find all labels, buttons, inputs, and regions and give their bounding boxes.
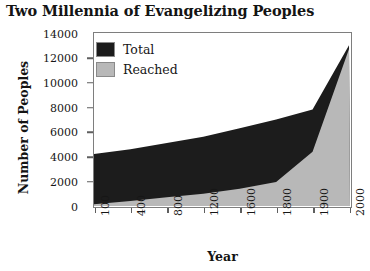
x-tick-label: 2000 [354, 188, 367, 216]
x-tick-label: 800 [172, 195, 185, 216]
y-tick-label: 2000 [50, 175, 78, 188]
y-tick-label: 10000 [43, 76, 78, 89]
x-tick-mark [131, 208, 133, 213]
x-tick-mark [95, 208, 97, 213]
x-tick-label: 1900 [318, 188, 331, 216]
legend-label: Reached [123, 62, 178, 77]
y-axis: 02000400060008000100001200014000 [0, 32, 88, 208]
x-axis-title: Year [93, 249, 352, 264]
x-tick-label: 400 [135, 195, 148, 216]
legend-label: Total [123, 42, 154, 57]
x-tick-mark [277, 208, 279, 213]
legend-swatch-reached [96, 62, 115, 77]
y-tick-label: 6000 [50, 126, 78, 139]
x-tick-mark [204, 208, 206, 213]
legend-swatch-total [96, 42, 115, 57]
y-tick-label: 8000 [50, 101, 78, 114]
x-tick-label: 1200 [208, 188, 221, 216]
x-tick-mark [313, 208, 315, 213]
x-tick-label: 1800 [281, 188, 294, 216]
x-tick-mark [350, 208, 352, 213]
x-axis: 10040080012001600180019002000 [93, 208, 352, 254]
y-tick-label: 14000 [43, 27, 78, 40]
legend-item-total: Total [96, 42, 178, 57]
x-tick-mark [240, 208, 242, 213]
y-tick-label: 12000 [43, 52, 78, 65]
chart-title: Two Millennia of Evangelizing Peoples [6, 2, 314, 19]
chart-legend: TotalReached [96, 42, 178, 77]
chart-figure: Two Millennia of Evangelizing Peoples Nu… [0, 0, 370, 271]
x-tick-mark [167, 208, 169, 213]
x-tick-label: 100 [99, 195, 112, 216]
legend-item-reached: Reached [96, 62, 178, 77]
x-tick-label: 1600 [245, 188, 258, 216]
y-tick-label: 0 [71, 200, 78, 213]
y-tick-label: 4000 [50, 151, 78, 164]
